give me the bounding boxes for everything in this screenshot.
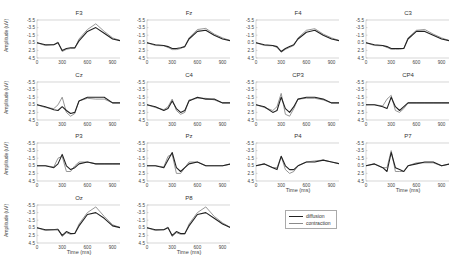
svg-text:-5.5: -5.5 bbox=[356, 18, 364, 23]
svg-text:4.5: 4.5 bbox=[358, 56, 365, 61]
plot-area: -5.5-3.5-1.50.52.54.50300600900 bbox=[0, 70, 120, 132]
svg-text:-5.5: -5.5 bbox=[246, 141, 254, 146]
svg-text:-3.5: -3.5 bbox=[246, 148, 254, 153]
svg-text:2.5: 2.5 bbox=[29, 110, 36, 115]
svg-text:-3.5: -3.5 bbox=[137, 210, 145, 215]
plot-area: -5.5-3.5-1.50.52.54.50300600900 bbox=[110, 193, 230, 255]
svg-text:-5.5: -5.5 bbox=[356, 141, 364, 146]
svg-text:-3.5: -3.5 bbox=[27, 25, 35, 30]
plot-area: -5.5-3.5-1.50.52.54.50300600900 bbox=[219, 8, 339, 70]
svg-text:-1.5: -1.5 bbox=[246, 156, 254, 161]
svg-text:2.5: 2.5 bbox=[248, 48, 255, 53]
svg-text:4.5: 4.5 bbox=[139, 241, 146, 246]
svg-text:0.5: 0.5 bbox=[139, 163, 146, 168]
svg-text:600: 600 bbox=[84, 60, 92, 65]
legend-swatch-contraction bbox=[289, 223, 303, 224]
svg-text:900: 900 bbox=[438, 60, 446, 65]
svg-text:4.5: 4.5 bbox=[248, 56, 255, 61]
svg-text:-5.5: -5.5 bbox=[27, 203, 35, 208]
svg-text:900: 900 bbox=[438, 122, 446, 127]
svg-text:-5.5: -5.5 bbox=[27, 141, 35, 146]
plot-area: -5.5-3.5-1.50.52.54.50300600900 bbox=[0, 193, 120, 255]
svg-text:2.5: 2.5 bbox=[139, 171, 146, 176]
svg-text:0.5: 0.5 bbox=[248, 163, 255, 168]
svg-text:-3.5: -3.5 bbox=[27, 210, 35, 215]
svg-text:-5.5: -5.5 bbox=[356, 80, 364, 85]
plot-area: -5.5-3.5-1.50.52.54.50300600900 bbox=[0, 8, 120, 70]
svg-text:300: 300 bbox=[168, 60, 176, 65]
svg-text:-1.5: -1.5 bbox=[137, 33, 145, 38]
plot-area: -5.5-3.5-1.50.52.54.50300600900 bbox=[110, 8, 230, 70]
legend-label-contraction: contraction bbox=[306, 220, 330, 226]
svg-text:0: 0 bbox=[255, 122, 258, 127]
plot-area: -5.5-3.5-1.50.52.54.50300600900 bbox=[219, 70, 339, 132]
svg-text:4.5: 4.5 bbox=[139, 56, 146, 61]
svg-text:2.5: 2.5 bbox=[29, 233, 36, 238]
svg-text:2.5: 2.5 bbox=[29, 48, 36, 53]
svg-text:0.5: 0.5 bbox=[29, 225, 36, 230]
plot-area: -5.5-3.5-1.50.52.54.50300600900 bbox=[329, 70, 449, 132]
plot-area: -5.5-3.5-1.50.52.54.50300600900 bbox=[110, 131, 230, 193]
panel-c3: C3-5.5-3.5-1.50.52.54.50300600900 bbox=[329, 8, 449, 70]
svg-text:-3.5: -3.5 bbox=[246, 25, 254, 30]
svg-text:300: 300 bbox=[387, 122, 395, 127]
svg-text:0: 0 bbox=[36, 60, 39, 65]
svg-text:-1.5: -1.5 bbox=[27, 218, 35, 223]
plot-area: -5.5-3.5-1.50.52.54.50300600900 bbox=[110, 70, 230, 132]
svg-text:600: 600 bbox=[303, 60, 311, 65]
svg-text:600: 600 bbox=[84, 122, 92, 127]
svg-text:2.5: 2.5 bbox=[139, 110, 146, 115]
legend-swatch-diffusion bbox=[289, 216, 303, 217]
panel-p4: P4-5.5-3.5-1.50.52.54.50300600900Time (m… bbox=[219, 131, 339, 193]
x-axis-label: Time (ms) bbox=[37, 249, 121, 255]
svg-text:2.5: 2.5 bbox=[29, 171, 36, 176]
svg-text:-5.5: -5.5 bbox=[246, 18, 254, 23]
svg-text:-5.5: -5.5 bbox=[137, 18, 145, 23]
panel-cp3: CP3-5.5-3.5-1.50.52.54.50300600900 bbox=[219, 70, 339, 132]
svg-text:4.5: 4.5 bbox=[358, 118, 365, 123]
svg-text:-3.5: -3.5 bbox=[356, 25, 364, 30]
svg-text:0.5: 0.5 bbox=[248, 40, 255, 45]
svg-text:0: 0 bbox=[365, 60, 368, 65]
svg-text:300: 300 bbox=[387, 60, 395, 65]
svg-text:4.5: 4.5 bbox=[248, 118, 255, 123]
svg-text:-1.5: -1.5 bbox=[27, 95, 35, 100]
svg-text:2.5: 2.5 bbox=[139, 48, 146, 53]
svg-text:4.5: 4.5 bbox=[358, 179, 365, 184]
svg-text:0.5: 0.5 bbox=[29, 40, 36, 45]
x-axis-label: Time (ms) bbox=[366, 187, 450, 193]
svg-text:600: 600 bbox=[413, 60, 421, 65]
svg-text:300: 300 bbox=[277, 60, 285, 65]
svg-text:-3.5: -3.5 bbox=[137, 148, 145, 153]
svg-text:-3.5: -3.5 bbox=[137, 87, 145, 92]
svg-text:-3.5: -3.5 bbox=[246, 87, 254, 92]
svg-text:0: 0 bbox=[36, 122, 39, 127]
svg-text:300: 300 bbox=[277, 122, 285, 127]
svg-text:0.5: 0.5 bbox=[139, 102, 146, 107]
panel-c4: C4-5.5-3.5-1.50.52.54.50300600900 bbox=[110, 70, 230, 132]
svg-text:-1.5: -1.5 bbox=[27, 33, 35, 38]
svg-text:-5.5: -5.5 bbox=[137, 80, 145, 85]
svg-text:600: 600 bbox=[194, 122, 202, 127]
svg-text:4.5: 4.5 bbox=[29, 179, 36, 184]
svg-text:0: 0 bbox=[146, 60, 149, 65]
svg-text:-1.5: -1.5 bbox=[246, 95, 254, 100]
plot-area: -5.5-3.5-1.50.52.54.50300600900 bbox=[219, 131, 339, 193]
svg-text:-3.5: -3.5 bbox=[356, 148, 364, 153]
panel-f4: F4-5.5-3.5-1.50.52.54.50300600900 bbox=[219, 8, 339, 70]
svg-text:300: 300 bbox=[168, 122, 176, 127]
svg-text:2.5: 2.5 bbox=[358, 171, 365, 176]
panel-cp4: CP4-5.5-3.5-1.50.52.54.50300600900 bbox=[329, 70, 449, 132]
plot-area: -5.5-3.5-1.50.52.54.50300600900 bbox=[329, 8, 449, 70]
svg-text:2.5: 2.5 bbox=[358, 48, 365, 53]
plot-area: -5.5-3.5-1.50.52.54.50300600900 bbox=[0, 131, 120, 193]
svg-text:-1.5: -1.5 bbox=[356, 33, 364, 38]
legend: diffusion contraction bbox=[285, 210, 337, 229]
svg-text:2.5: 2.5 bbox=[139, 233, 146, 238]
panel-p7: P7-5.5-3.5-1.50.52.54.50300600900Time (m… bbox=[329, 131, 449, 193]
svg-text:4.5: 4.5 bbox=[248, 179, 255, 184]
svg-text:0.5: 0.5 bbox=[29, 163, 36, 168]
panel-oz: OzAmplitude (uV)-5.5-3.5-1.50.52.54.5030… bbox=[0, 193, 120, 255]
legend-label-diffusion: diffusion bbox=[306, 213, 325, 219]
svg-text:600: 600 bbox=[303, 122, 311, 127]
